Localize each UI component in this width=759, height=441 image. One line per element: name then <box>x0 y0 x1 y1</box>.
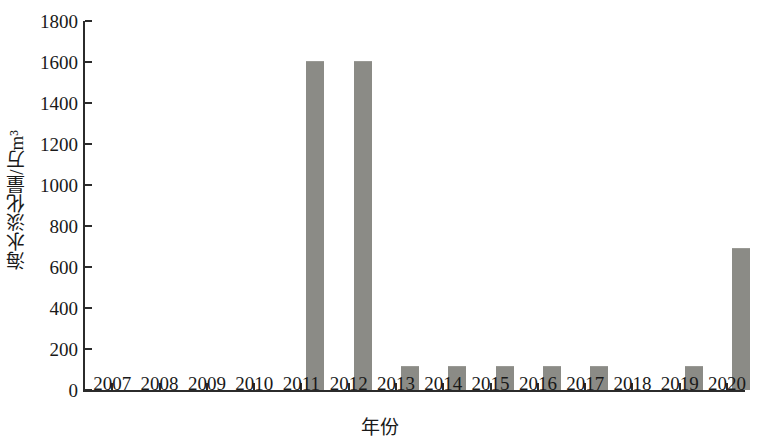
y-axis-tick <box>85 266 92 268</box>
y-axis-tick <box>85 348 92 350</box>
y-axis-tick <box>85 225 92 227</box>
y-axis-tick-label: 200 <box>30 340 78 359</box>
y-axis-tick <box>85 102 92 104</box>
y-axis-tick-label: 1400 <box>30 94 78 113</box>
y-axis-tick-label: 1200 <box>30 135 78 154</box>
x-axis-tick-label: 2020 <box>699 374 755 393</box>
y-axis-tick <box>85 61 92 63</box>
bar <box>732 248 750 390</box>
y-axis-tick-label: 1800 <box>30 12 78 31</box>
y-axis-tick-label: 800 <box>30 217 78 236</box>
y-axis-tick <box>85 307 92 309</box>
y-axis-tick <box>85 184 92 186</box>
y-axis-tick-label: 400 <box>30 299 78 318</box>
x-axis-title: 年份 <box>0 412 759 439</box>
y-axis-line <box>83 21 85 392</box>
y-axis-title: 海水淡化量/万m³ <box>0 0 32 400</box>
y-axis-tick-label: 0 <box>30 381 78 400</box>
y-axis-title-text: 海水淡化量/万m³ <box>3 130 30 270</box>
y-axis-tick-label: 1000 <box>30 176 78 195</box>
y-axis-tick-label: 1600 <box>30 53 78 72</box>
y-axis-tick <box>85 143 92 145</box>
bar <box>354 61 372 390</box>
plot-area <box>83 21 745 392</box>
bar-chart: 海水淡化量/万m³ 020040060080010001200140016001… <box>0 0 759 441</box>
y-axis-tick <box>85 20 92 22</box>
bar <box>306 61 324 390</box>
y-axis-tick-label: 600 <box>30 258 78 277</box>
